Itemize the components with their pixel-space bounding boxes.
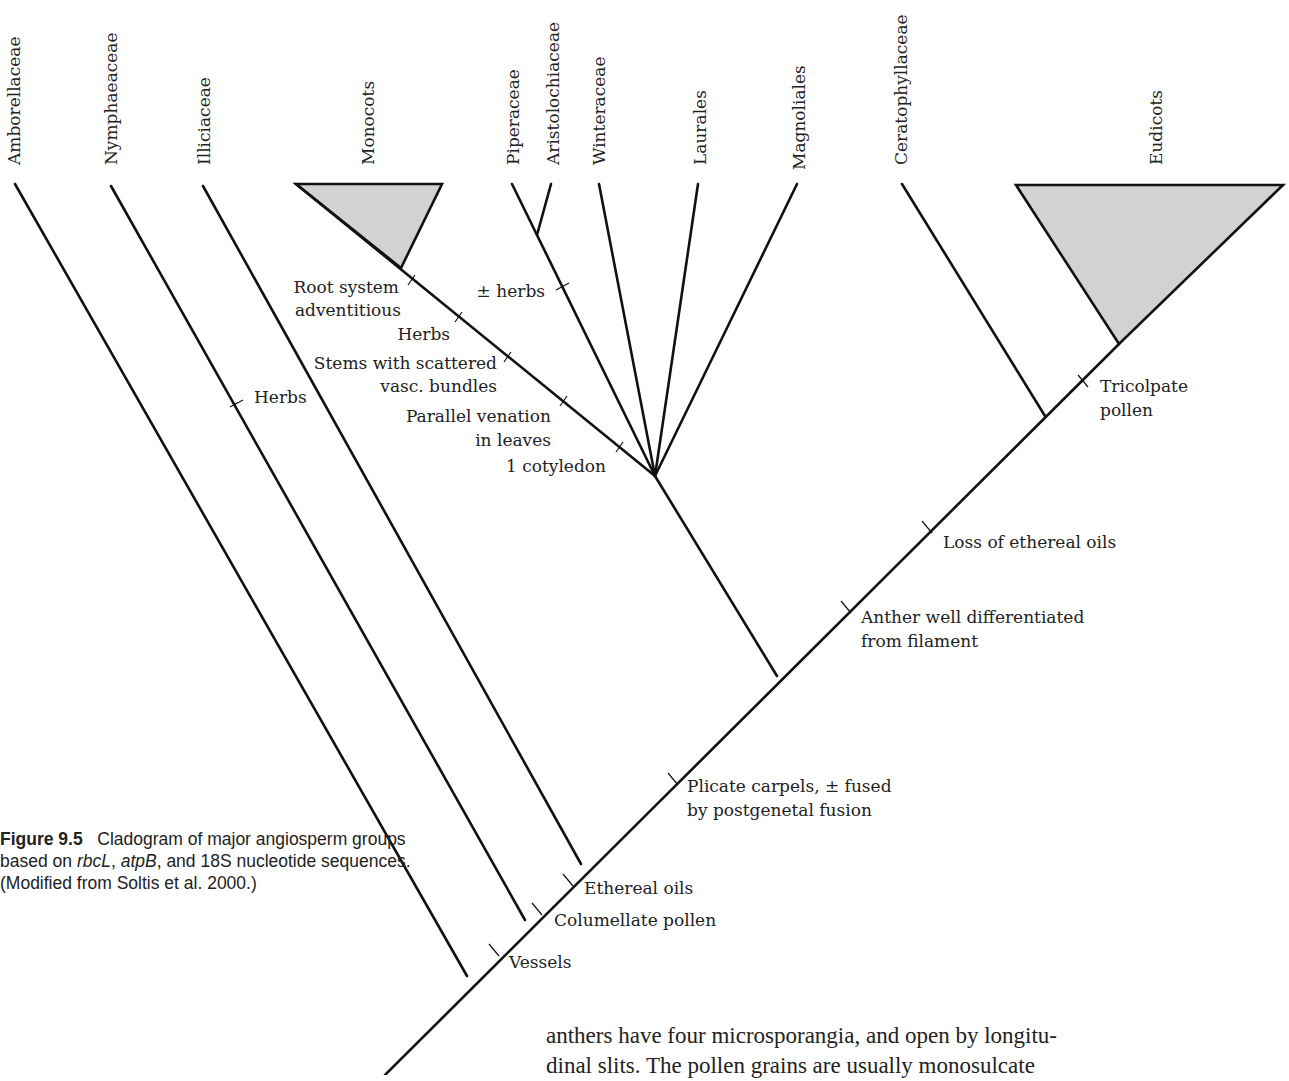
taxon-illiciaceae: Illiciaceae (194, 77, 214, 165)
figure-caption: Figure 9.5 Cladogram of major angiosperm… (0, 828, 440, 894)
trait-parallel-2: in leaves (475, 430, 551, 450)
taxon-eudicots: Eudicots (1146, 90, 1166, 165)
taxon-aristolochiaceae: Aristolochiaceae (543, 22, 563, 166)
branch-ceratophyllaceae (902, 184, 1045, 416)
trait-ethereal: Ethereal oils (584, 878, 693, 898)
monocots-clade-triangle (296, 184, 442, 268)
taxon-ceratophyllaceae: Ceratophyllaceae (891, 14, 911, 165)
caption-gene-atpb: atpB (121, 851, 157, 871)
body-text: anthers have four microsporangia, and op… (546, 1021, 1289, 1081)
body-text-line-2: dinal slits. The pollen grains are usual… (546, 1051, 1289, 1081)
branch-winteraceae (599, 184, 655, 476)
trait-anther-2: from filament (861, 631, 978, 651)
trait-parallel-1: Parallel venation (406, 406, 551, 426)
trait-loss-oils: Loss of ethereal oils (943, 532, 1116, 552)
branch-polytomy-stem (655, 476, 777, 676)
taxon-magnoliales: Magnoliales (789, 65, 809, 170)
branches (15, 184, 1119, 1075)
trait-stems-1: Stems with scattered (314, 353, 497, 373)
taxon-monocots: Monocots (358, 81, 378, 165)
trait-anther-1: Anther well differentiated (860, 607, 1084, 627)
taxon-laurales: Laurales (690, 90, 710, 165)
trait-stems-2: vasc. bundles (379, 376, 497, 396)
taxon-nymphaeaceae: Nymphaeaceae (101, 32, 121, 165)
taxon-labels: Amborellaceae Nymphaeaceae Illiciaceae M… (4, 14, 1166, 170)
trait-pm-herbs: ± herbs (477, 281, 545, 301)
caption-label: Figure 9.5 (0, 829, 83, 849)
trait-tricolpate-1: Tricolpate (1100, 376, 1188, 396)
caption-gene-rbcl: rbcL (77, 851, 111, 871)
taxon-piperaceae: Piperaceae (503, 69, 523, 165)
branch-aristolochiaceae (537, 184, 551, 235)
trait-vessels: Vessels (508, 952, 571, 972)
body-text-line-1: anthers have four microsporangia, and op… (546, 1021, 1289, 1051)
eudicots-clade-triangle (1016, 185, 1283, 344)
trait-plicate-2: by postgenetal fusion (687, 800, 872, 820)
taxon-amborellaceae: Amborellaceae (4, 37, 24, 167)
trait-cotyledon: 1 cotyledon (506, 456, 606, 476)
trait-root-system-2: adventitious (295, 300, 401, 320)
trait-plicate-1: Plicate carpels, ± fused (687, 776, 892, 796)
caption-separator: , (111, 851, 121, 871)
trait-monocot-herbs: Herbs (397, 324, 450, 344)
trait-root-system-1: Root system (293, 277, 399, 297)
trait-nymph-herbs: Herbs (254, 387, 307, 407)
taxon-winteraceae: Winteraceae (589, 57, 609, 166)
trait-tricolpate-2: pollen (1100, 400, 1153, 420)
trait-columellate: Columellate pollen (554, 910, 716, 930)
